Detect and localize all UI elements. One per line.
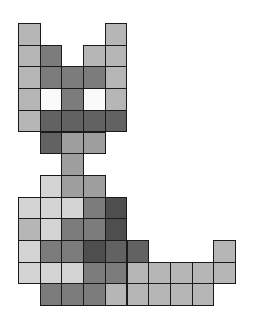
pixel-square — [40, 88, 63, 111]
pixel-square — [61, 197, 84, 220]
pixel-square — [83, 132, 106, 155]
pixel-square — [127, 262, 150, 285]
pixel-square — [105, 262, 128, 285]
pixel-square — [61, 283, 84, 306]
pixel-square — [83, 240, 106, 263]
pixel-square — [61, 66, 84, 89]
pixel-square — [105, 240, 128, 263]
pixel-square — [127, 283, 150, 306]
pixel-square — [61, 218, 84, 241]
pixel-square — [105, 88, 128, 111]
pixel-square — [127, 240, 150, 263]
pixel-square — [105, 197, 128, 220]
pixel-square — [105, 218, 128, 241]
pixel-square — [40, 240, 63, 263]
pixel-square — [40, 283, 63, 306]
pixel-square — [148, 283, 171, 306]
pixel-square — [83, 175, 106, 198]
pixel-square — [105, 110, 128, 133]
pixel-square — [83, 262, 106, 285]
pixel-square — [83, 283, 106, 306]
pixel-square — [61, 175, 84, 198]
pixel-square — [18, 66, 41, 89]
pixel-square — [40, 132, 63, 155]
pixel-square — [192, 262, 215, 285]
pixel-square — [105, 66, 128, 89]
pixel-square — [61, 132, 84, 155]
pixel-square — [83, 110, 106, 133]
pixel-square — [18, 23, 41, 46]
pixel-square — [148, 262, 171, 285]
pixel-square — [61, 153, 84, 176]
pixel-square — [18, 45, 41, 68]
pixel-square — [61, 110, 84, 133]
pixel-square — [40, 262, 63, 285]
pixel-square — [18, 88, 41, 111]
pixel-square — [40, 110, 63, 133]
pixel-square — [61, 240, 84, 263]
pixel-cat-figure — [0, 0, 253, 330]
pixel-square — [83, 218, 106, 241]
pixel-square — [105, 45, 128, 68]
pixel-square — [170, 283, 193, 306]
pixel-square — [61, 88, 84, 111]
pixel-square — [83, 88, 106, 111]
pixel-square — [83, 66, 106, 89]
pixel-square — [83, 197, 106, 220]
pixel-square — [18, 197, 41, 220]
pixel-square — [40, 66, 63, 89]
pixel-square — [18, 110, 41, 133]
pixel-square — [61, 262, 84, 285]
pixel-square — [192, 283, 215, 306]
pixel-square — [170, 262, 193, 285]
pixel-square — [213, 262, 236, 285]
pixel-square — [40, 45, 63, 68]
pixel-square — [40, 197, 63, 220]
pixel-square — [105, 283, 128, 306]
pixel-square — [18, 240, 41, 263]
pixel-square — [105, 23, 128, 46]
pixel-square — [40, 218, 63, 241]
pixel-square — [18, 262, 41, 285]
pixel-square — [83, 45, 106, 68]
pixel-square — [40, 175, 63, 198]
pixel-square — [18, 218, 41, 241]
pixel-square — [213, 240, 236, 263]
